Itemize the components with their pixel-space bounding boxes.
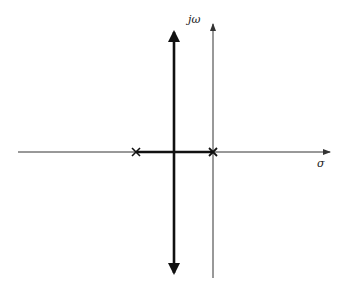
real-axis-label: σ: [317, 157, 325, 170]
imaginary-axis-label: jω: [185, 13, 200, 26]
root-locus-diagram: jω σ: [0, 0, 344, 294]
